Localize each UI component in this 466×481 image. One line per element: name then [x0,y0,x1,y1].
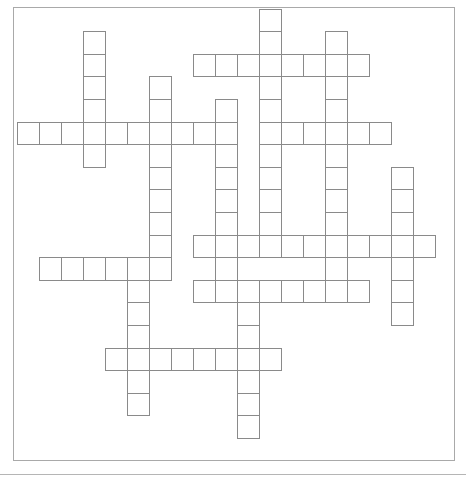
crossword-cell[interactable] [127,370,150,394]
crossword-cell[interactable] [127,257,150,281]
crossword-cell[interactable] [149,76,172,100]
crossword-cell[interactable] [149,144,172,168]
crossword-cell[interactable] [325,122,348,146]
crossword-cell[interactable] [369,235,392,259]
crossword-cell[interactable] [215,167,238,191]
crossword-cell[interactable] [281,280,304,304]
crossword-cell[interactable] [325,167,348,191]
crossword-cell[interactable] [127,348,150,372]
crossword-cell[interactable] [237,370,260,394]
crossword-cell[interactable] [83,144,106,168]
crossword-cell[interactable] [259,76,282,100]
crossword-cell[interactable] [303,280,326,304]
crossword-cell[interactable] [83,122,106,146]
crossword-cell[interactable] [347,122,370,146]
crossword-cell[interactable] [259,280,282,304]
crossword-cell[interactable] [391,302,414,326]
crossword-cell[interactable] [127,325,150,349]
crossword-cell[interactable] [281,235,304,259]
crossword-cell[interactable] [83,31,106,55]
crossword-cell[interactable] [303,235,326,259]
crossword-cell[interactable] [149,99,172,123]
crossword-cell[interactable] [303,122,326,146]
crossword-cell[interactable] [83,257,106,281]
crossword-cell[interactable] [149,122,172,146]
crossword-cell[interactable] [259,235,282,259]
crossword-cell[interactable] [193,348,216,372]
crossword-cell[interactable] [259,54,282,78]
crossword-cell[interactable] [215,257,238,281]
crossword-cell[interactable] [325,235,348,259]
crossword-cell[interactable] [83,54,106,78]
crossword-cell[interactable] [325,76,348,100]
crossword-cell[interactable] [259,189,282,213]
crossword-cell[interactable] [171,122,194,146]
crossword-cell[interactable] [259,144,282,168]
crossword-cell[interactable] [237,280,260,304]
crossword-cell[interactable] [149,348,172,372]
crossword-cell[interactable] [215,99,238,123]
crossword-cell[interactable] [149,167,172,191]
crossword-cell[interactable] [39,257,62,281]
crossword-cell[interactable] [215,189,238,213]
crossword-cell[interactable] [193,235,216,259]
crossword-cell[interactable] [259,212,282,236]
crossword-cell[interactable] [193,122,216,146]
crossword-cell[interactable] [391,189,414,213]
crossword-cell[interactable] [325,280,348,304]
crossword-cell[interactable] [347,235,370,259]
crossword-cell[interactable] [325,99,348,123]
crossword-cell[interactable] [149,235,172,259]
crossword-cell[interactable] [215,348,238,372]
crossword-cell[interactable] [39,122,62,146]
crossword-cell[interactable] [193,280,216,304]
crossword-cell[interactable] [105,348,128,372]
crossword-cell[interactable] [127,302,150,326]
crossword-cell[interactable] [215,54,238,78]
crossword-cell[interactable] [237,235,260,259]
crossword-cell[interactable] [347,54,370,78]
crossword-cell[interactable] [281,122,304,146]
crossword-cell[interactable] [237,302,260,326]
crossword-cell[interactable] [83,76,106,100]
crossword-cell[interactable] [325,189,348,213]
crossword-cell[interactable] [237,348,260,372]
crossword-cell[interactable] [105,257,128,281]
crossword-cell[interactable] [391,167,414,191]
crossword-cell[interactable] [215,122,238,146]
crossword-cell[interactable] [325,144,348,168]
crossword-cell[interactable] [149,212,172,236]
crossword-cell[interactable] [215,212,238,236]
crossword-cell[interactable] [215,280,238,304]
crossword-cell[interactable] [281,54,304,78]
crossword-cell[interactable] [325,54,348,78]
crossword-cell[interactable] [215,144,238,168]
crossword-cell[interactable] [83,99,106,123]
crossword-cell[interactable] [127,122,150,146]
crossword-cell[interactable] [259,167,282,191]
crossword-cell[interactable] [259,99,282,123]
crossword-cell[interactable] [127,280,150,304]
crossword-cell[interactable] [259,122,282,146]
crossword-cell[interactable] [17,122,40,146]
crossword-cell[interactable] [259,31,282,55]
crossword-cell[interactable] [413,235,436,259]
crossword-cell[interactable] [369,122,392,146]
crossword-cell[interactable] [237,393,260,417]
crossword-cell[interactable] [215,235,238,259]
crossword-cell[interactable] [193,54,216,78]
crossword-cell[interactable] [61,257,84,281]
crossword-cell[interactable] [259,9,282,33]
crossword-cell[interactable] [391,257,414,281]
crossword-cell[interactable] [171,348,194,372]
crossword-cell[interactable] [259,348,282,372]
crossword-cell[interactable] [149,257,172,281]
crossword-cell[interactable] [391,280,414,304]
crossword-cell[interactable] [127,393,150,417]
crossword-cell[interactable] [325,257,348,281]
crossword-cell[interactable] [325,212,348,236]
crossword-cell[interactable] [237,54,260,78]
crossword-cell[interactable] [347,280,370,304]
crossword-cell[interactable] [325,31,348,55]
crossword-cell[interactable] [237,415,260,439]
